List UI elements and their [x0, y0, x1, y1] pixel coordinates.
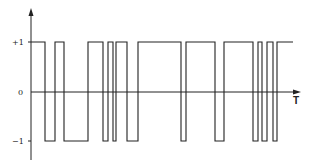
y-axis-arrow-icon — [29, 8, 34, 16]
label-t: T — [293, 95, 299, 106]
waveform-diagram: +1 0 −1 T — [0, 0, 312, 166]
label-zero: 0 — [18, 88, 23, 97]
diagram-svg: +1 0 −1 T — [0, 0, 312, 166]
label-minus1: −1 — [12, 137, 24, 146]
label-plus1: +1 — [12, 38, 24, 47]
x-axis-arrow-icon — [293, 90, 301, 95]
